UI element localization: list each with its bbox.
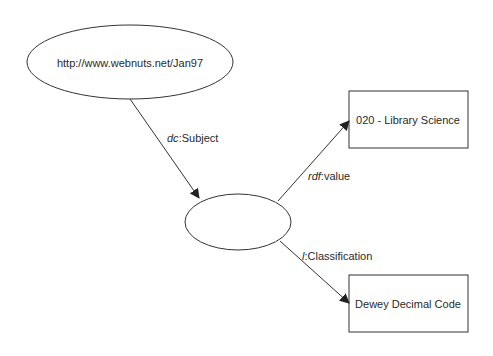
edge-label-dc-subject: dc:Subject — [167, 132, 218, 144]
edge-label-l-classification: l:Classification — [302, 250, 372, 262]
subject-node-label: http://www.webnuts.net/Jan97 — [57, 57, 203, 69]
value-node-label: 020 - Library Science — [356, 114, 460, 126]
classification-node-label: Dewey Decimal Code — [355, 298, 461, 310]
edge-dc-subject — [130, 99, 199, 198]
edge-label-rdf-value: rdf:value — [308, 170, 350, 182]
blank-node — [185, 194, 291, 250]
edge-rdf-value — [278, 121, 349, 201]
